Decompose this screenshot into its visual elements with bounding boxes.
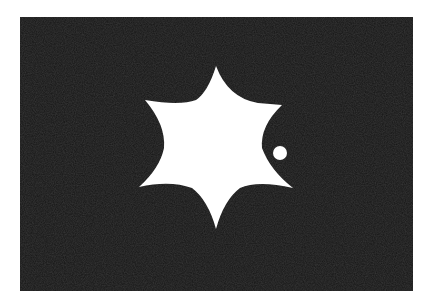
star-figure [0, 0, 432, 307]
small-dot [273, 146, 287, 160]
